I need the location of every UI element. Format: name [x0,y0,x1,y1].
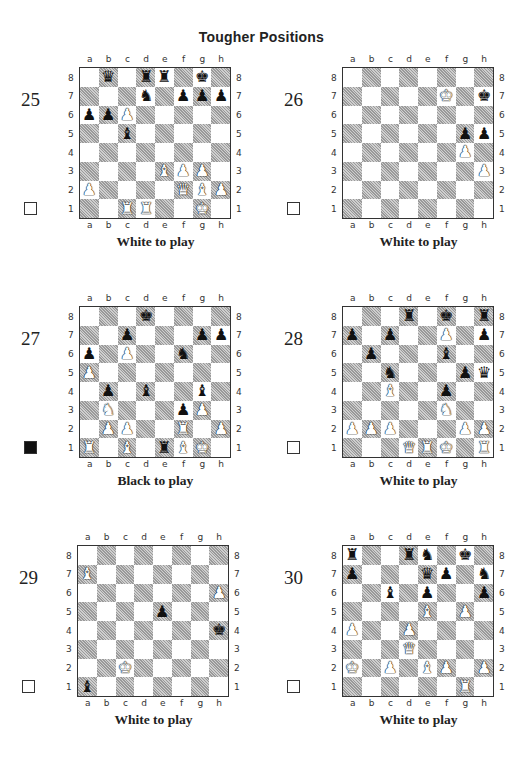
square-f8: ♚ [437,307,456,326]
chess-board: ♚♚♟♟♟♟ [342,67,494,219]
black-pawn-icon: ♟ [155,604,169,620]
square-h8 [474,546,493,565]
square-b3 [362,162,381,181]
solution-checkbox[interactable] [22,680,35,693]
white-pawn-icon: ♟ [383,421,397,437]
square-a3 [343,640,362,659]
square-h6: ♟ [209,584,228,603]
white-bishop-icon: ♝ [120,440,134,456]
square-h6 [211,106,230,125]
square-b2 [97,659,116,678]
rank-label: 2 [66,659,72,678]
white-pawn-icon: ♟ [214,182,228,198]
square-f4: ♟ [437,382,456,401]
square-h3 [211,162,230,181]
black-king-icon: ♚ [458,547,472,563]
square-e4 [155,143,174,162]
rank-label: 5 [499,125,505,144]
square-a2 [78,659,97,678]
solution-checkbox[interactable] [287,202,300,215]
square-e1: ♜ [418,438,437,457]
file-label: f [437,532,456,542]
square-c8 [381,68,400,87]
file-label: h [475,698,494,708]
file-label: d [137,459,156,469]
square-f8 [437,68,456,87]
rank-label: 8 [499,547,505,566]
square-g8 [456,68,475,87]
rank-label: 2 [499,659,505,678]
square-g4: ♝ [193,382,212,401]
square-a5 [343,602,362,621]
rank-label: 1 [499,200,505,219]
square-c7 [116,565,135,584]
solution-checkbox[interactable] [24,202,37,215]
white-pawn-icon: ♟ [120,421,134,437]
square-a4 [80,382,99,401]
square-h2: ♟ [474,420,493,439]
square-b2 [99,181,118,200]
rank-label: 3 [499,162,505,181]
black-knight-icon: ♞ [420,547,434,563]
rank-label: 7 [236,87,242,106]
file-label: h [210,532,229,542]
file-label: g [191,698,210,708]
square-c1 [381,438,400,457]
black-pawn-icon: ♟ [101,383,115,399]
file-label: a [81,54,100,64]
file-label: g [193,459,212,469]
solution-checkbox[interactable] [24,441,37,454]
square-f4 [172,621,191,640]
file-label: g [456,698,475,708]
rank-label: 4 [499,144,505,163]
square-a4 [78,621,97,640]
square-d7 [134,565,153,584]
square-g5 [193,124,212,143]
file-labels-bottom: abcdefgh [81,459,231,469]
square-h8 [209,546,228,565]
square-a3 [80,401,99,420]
square-f4 [437,621,456,640]
square-a8 [80,68,99,87]
square-g4: ♟ [456,143,475,162]
puzzle-number: 27 [21,328,40,350]
file-labels-top: abcdefgh [344,532,494,542]
square-g7 [456,87,475,106]
square-a8: ♜ [343,546,362,565]
square-g1: ♜ [456,677,475,696]
square-b2: ♟ [99,420,118,439]
square-b7 [99,87,118,106]
square-d2 [399,181,418,200]
puzzle-number: 26 [284,89,303,111]
square-h6 [474,345,493,364]
square-a1 [343,438,362,457]
square-h7: ♞ [474,565,493,584]
white-rook-icon: ♜ [458,679,472,695]
file-label: b [99,293,118,303]
rank-label: 8 [68,69,74,88]
square-e8 [155,307,174,326]
rank-label: 6 [68,106,74,125]
rank-label: 5 [331,125,337,144]
white-pawn-icon: ♟ [176,163,190,179]
rank-label: 3 [331,640,337,659]
square-g8 [191,546,210,565]
square-h1: ♜ [474,438,493,457]
black-rook-icon: ♜ [402,547,416,563]
square-d8 [399,68,418,87]
solution-checkbox[interactable] [287,441,300,454]
square-e6 [155,345,174,364]
square-f2 [437,420,456,439]
rank-labels-left: 87654321 [68,308,74,458]
square-g5: ♟ [456,363,475,382]
square-c6: ♟ [118,106,137,125]
square-g3: ♟ [193,401,212,420]
file-label: c [118,293,137,303]
square-g2 [191,659,210,678]
rank-label: 5 [236,364,242,383]
file-label: a [344,293,363,303]
square-d7 [399,87,418,106]
solution-checkbox[interactable] [287,680,300,693]
chess-board: ♛♜♜♚♞♟♟♟♟♟♟♝♝♟♟♟♛♝♟♜♜♚ [79,67,231,219]
file-label: d [400,459,419,469]
